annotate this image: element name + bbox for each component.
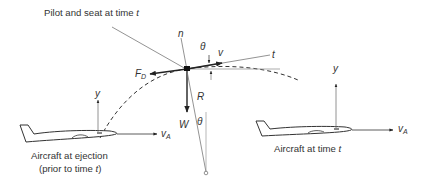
radius-label: R bbox=[197, 91, 204, 102]
pilot-label-leader-line bbox=[112, 27, 186, 69]
pilot-seat-label: Pilot and seat at time t bbox=[44, 7, 139, 18]
right-y-axis-label: y bbox=[332, 63, 339, 74]
left-aircraft-caption-line1: Aircraft at ejection bbox=[31, 150, 108, 161]
velocity-label: v bbox=[218, 47, 224, 58]
left-aircraft-caption-line2: (prior to time t) bbox=[39, 163, 101, 174]
drag-force-arrow bbox=[150, 69, 187, 74]
theta-lower-label: θ bbox=[197, 116, 203, 127]
theta-angle-label: θ bbox=[200, 41, 206, 52]
weight-label: W bbox=[179, 119, 190, 130]
left-y-axis-label: y bbox=[94, 88, 101, 99]
center-of-curvature-point bbox=[204, 171, 208, 175]
drag-force-label: FD bbox=[135, 68, 146, 80]
tangent-axis-label: t bbox=[272, 49, 276, 60]
normal-axis-label: n bbox=[178, 28, 184, 39]
velocity-arrow bbox=[187, 63, 222, 69]
right-aircraft-caption: Aircraft at time t bbox=[274, 143, 342, 154]
right-aircraft-velocity-label: vA bbox=[398, 123, 408, 135]
pilot-seat-marker bbox=[184, 66, 190, 71]
left-aircraft-velocity-label: vA bbox=[161, 128, 171, 140]
left-aircraft bbox=[20, 125, 117, 142]
ejection-seat-trajectory-diagram: Pilot and seat at time t n t v θ FD W R … bbox=[0, 0, 426, 184]
normal-axis-line bbox=[181, 38, 187, 70]
right-aircraft bbox=[256, 121, 352, 136]
